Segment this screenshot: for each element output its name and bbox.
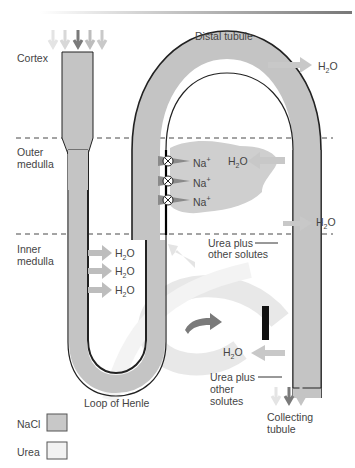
legend-label-nacl: NaCl: [17, 418, 40, 430]
nephron-diagram: [0, 0, 355, 468]
label-urea-lower-3: solutes: [210, 395, 243, 407]
water-barrier: [262, 306, 269, 340]
label-h2o-lower: H2O: [223, 346, 243, 363]
zone-label-cortex: Cortex: [17, 52, 48, 64]
label-distal-tubule: Distal tubule: [195, 30, 253, 42]
label-h2o-desc-2: H2O: [115, 265, 135, 282]
collecting-tubule: [293, 150, 321, 398]
h2o-arrows-descending: [88, 245, 112, 298]
label-collecting-1: Collecting: [267, 411, 313, 423]
legend-swatch-urea: [47, 442, 67, 459]
zone-label-inner-2: medulla: [17, 255, 54, 267]
label-na-1: Na+: [193, 154, 211, 169]
label-h2o-desc-3: H2O: [115, 284, 135, 301]
zone-label-outer-2: medulla: [17, 158, 54, 170]
urea-flow-arrow: [185, 313, 222, 334]
inflow-arrows: [49, 30, 106, 47]
label-h2o-desc-1: H2O: [115, 247, 135, 264]
interstitium-cloud: [170, 141, 278, 213]
label-na-3: Na+: [193, 193, 211, 208]
label-loop-of-henle: Loop of Henle: [84, 397, 149, 409]
zone-label-outer-1: Outer: [17, 146, 43, 158]
urea-arrow-up: [168, 244, 195, 268]
label-h2o-collecting: H2O: [316, 216, 336, 233]
label-urea-upper-2: other solutes: [208, 248, 268, 260]
legend-label-urea: Urea: [17, 446, 40, 458]
label-urea-lower-2: other: [210, 383, 234, 395]
h2o-arrow-lower: [251, 345, 285, 361]
header-gradient-bar: [40, 11, 352, 14]
outflow-arrows: [272, 387, 305, 403]
zone-label-inner-1: Inner: [17, 243, 41, 255]
label-collecting-2: tubule: [267, 423, 296, 435]
label-h2o-distal: H2O: [318, 60, 338, 77]
label-h2o-outer: H2O: [228, 155, 248, 172]
label-na-2: Na+: [193, 174, 211, 189]
legend-swatch-nacl: [47, 414, 67, 431]
label-urea-lower-1: Urea plus: [210, 371, 255, 383]
descending-limb-upper: [62, 52, 93, 154]
